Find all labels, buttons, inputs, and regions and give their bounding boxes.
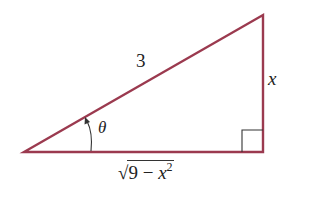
radicand: 9 − x2 bbox=[127, 160, 173, 182]
exponent: 2 bbox=[167, 160, 173, 174]
opposite-side-label: x bbox=[268, 69, 276, 88]
hypotenuse-label: 3 bbox=[136, 51, 146, 70]
radicand-body: 9 − x bbox=[128, 162, 166, 183]
angle-theta-label: θ bbox=[98, 119, 106, 136]
right-triangle bbox=[24, 15, 263, 152]
angle-arrowhead-icon bbox=[85, 117, 91, 125]
angle-arc bbox=[87, 121, 92, 151]
adjacent-side-label: √9 − x2 bbox=[118, 160, 174, 182]
right-angle-marker bbox=[242, 130, 263, 152]
